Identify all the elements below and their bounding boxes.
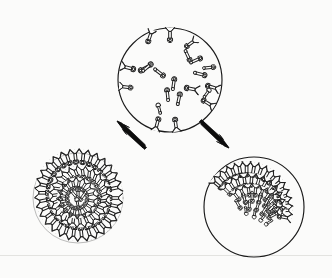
diagram-canvas [0, 0, 332, 278]
arrow-to-capped-particle [199, 120, 229, 148]
uniform-particle-spikes [35, 149, 123, 242]
arrow-to-uniform-particle [117, 121, 147, 149]
panel-capped-particle [204, 157, 304, 257]
source-vesicle-lumen-spikes [137, 49, 216, 115]
virus-spike-diagram [0, 0, 332, 278]
capped-particle-cap-spikes [209, 161, 293, 226]
panel-uniform-particle [33, 149, 123, 243]
panel-source-vesicle [118, 27, 222, 132]
source-vesicle-membrane [118, 28, 222, 132]
